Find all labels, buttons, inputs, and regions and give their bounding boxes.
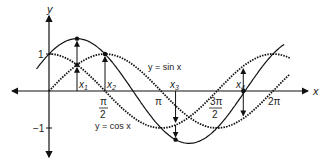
x3-label: x3 bbox=[169, 79, 179, 91]
x2-label: x2 bbox=[106, 79, 116, 91]
x-tick-pi-half-den: 2 bbox=[100, 109, 106, 120]
x1-label: x1 bbox=[78, 79, 88, 91]
y-axis-label: y bbox=[46, 3, 54, 15]
x-tick-pi-half-num: π bbox=[100, 96, 107, 107]
sin-curve-label: y = sin x bbox=[148, 62, 182, 72]
point-marker bbox=[75, 63, 79, 67]
point-marker bbox=[173, 137, 177, 141]
x-tick-2pi: 2π bbox=[268, 96, 281, 107]
cos-curve-label: y = cos x bbox=[95, 121, 131, 131]
chart-plot: y x 1 −1 π 2 π 3π 2 2π y = sin x y = cos… bbox=[0, 0, 325, 163]
x-tick-3pi-half-num: 3π bbox=[210, 96, 223, 107]
point-marker bbox=[75, 36, 79, 40]
point-marker bbox=[103, 52, 107, 56]
y-tick-neg1: −1 bbox=[33, 123, 45, 134]
x-tick-3pi-half-den: 2 bbox=[212, 109, 218, 120]
y-tick-1: 1 bbox=[38, 49, 44, 60]
x-tick-pi: π bbox=[155, 96, 162, 107]
x-axis-label: x bbox=[312, 85, 319, 97]
